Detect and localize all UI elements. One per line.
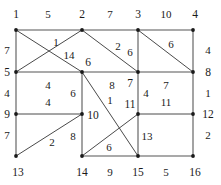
- edge-weight-label: 14: [64, 50, 75, 61]
- vertex-label: 14: [76, 167, 88, 178]
- edges-group: [16, 30, 193, 156]
- graph-vertex: [14, 112, 18, 116]
- vertex-label: 6: [85, 57, 91, 68]
- edge-weight-label: 6: [168, 39, 174, 50]
- graph-vertex: [80, 112, 84, 116]
- vertex-label: 2: [79, 9, 85, 20]
- edge-weight-label: 13: [142, 131, 153, 142]
- edge-weight-label: 4: [143, 88, 149, 99]
- edge-weight-label: 4: [4, 88, 10, 99]
- edge-weight-label: 6: [70, 88, 76, 99]
- edge-weight-label: 1: [107, 95, 113, 106]
- graph-vertex: [14, 70, 18, 74]
- graph-edge: [138, 30, 193, 72]
- graph-vertex: [191, 28, 195, 32]
- vertex-label: 7: [127, 78, 133, 89]
- graph-vertex: [191, 154, 195, 158]
- graph-vertex: [136, 28, 140, 32]
- vertex-label: 16: [189, 167, 201, 178]
- graph-vertex: [136, 112, 140, 116]
- edge-weight-label: 11: [161, 97, 172, 108]
- edge-weight-label: 7: [163, 80, 169, 91]
- edge-weight-label: 4: [205, 45, 211, 56]
- edge-weight-label: 10: [161, 9, 172, 20]
- edge-weight-label: 9: [107, 167, 113, 178]
- graph-vertex: [80, 70, 84, 74]
- graph-vertex: [14, 28, 18, 32]
- edge-weight-label: 8: [109, 80, 115, 91]
- edge-weight-label: 7: [4, 45, 10, 56]
- edge-weight-label: 4: [45, 97, 51, 108]
- vertex-label: 3: [135, 9, 141, 20]
- vertex-label: 4: [192, 9, 198, 20]
- vertex-label: 8: [205, 67, 211, 78]
- vertex-label: 10: [87, 110, 99, 121]
- edge-weight-label: 5: [45, 9, 51, 20]
- graph-vertex: [136, 70, 140, 74]
- edge-weight-label: 8: [70, 131, 76, 142]
- edge-weight-label: 4: [45, 80, 51, 91]
- graph-vertex: [14, 154, 18, 158]
- graph-canvas: [0, 0, 221, 185]
- graph-vertex: [191, 112, 195, 116]
- edge-weight-label: 2: [115, 41, 121, 52]
- edge-weight-label: 1: [205, 88, 211, 99]
- graph-figure: 5710487411957476864134121142616212345678…: [0, 0, 221, 185]
- edge-weight-label: 6: [127, 47, 133, 58]
- graph-vertex: [80, 154, 84, 158]
- edge-weight-label: 6: [106, 142, 112, 153]
- vertex-label: 13: [12, 167, 24, 178]
- edge-weight-label: 1: [53, 37, 59, 48]
- vertex-label: 15: [132, 167, 144, 178]
- vertex-label: 5: [4, 67, 10, 78]
- graph-vertex: [191, 70, 195, 74]
- vertex-label: 12: [202, 109, 214, 120]
- edge-weight-label: 2: [205, 130, 211, 141]
- edge-weight-label: 7: [4, 130, 10, 141]
- vertex-label: 11: [124, 99, 135, 110]
- graph-vertex: [80, 28, 84, 32]
- edge-weight-label: 5: [163, 167, 169, 178]
- edge-weight-label: 2: [49, 137, 55, 148]
- vertex-label: 9: [4, 109, 10, 120]
- vertex-label: 1: [13, 9, 19, 20]
- edge-weight-label: 7: [107, 9, 113, 20]
- graph-vertex: [136, 154, 140, 158]
